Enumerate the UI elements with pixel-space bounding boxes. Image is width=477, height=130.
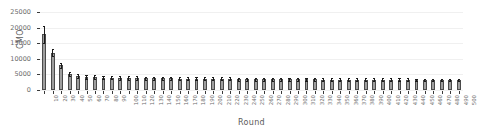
error-cap-upper [179,77,181,78]
error-cap-lower [238,81,240,82]
x-tick-mark [433,91,434,94]
bar-group [169,12,173,90]
x-tick-label: 460 [437,95,443,105]
bar-group [195,12,199,90]
x-tick-label: 130 [158,95,164,105]
bar-group [457,12,461,90]
error-bar [44,26,45,43]
x-tick-label: 90 [121,95,127,102]
error-cap-upper [280,78,282,79]
x-tick-label: 300 [302,95,308,105]
error-cap-lower [77,78,79,79]
error-cap-lower [398,81,400,82]
error-cap-lower [145,80,147,81]
bar-group [186,12,190,90]
bar-group [135,12,139,90]
x-tick-mark [425,91,426,94]
error-cap-lower [187,80,189,81]
error-cap-lower [272,81,274,82]
error-cap-lower [365,81,367,82]
bar-group [389,12,393,90]
x-tick-mark [120,91,121,94]
error-cap-lower [170,80,172,81]
x-tick-mark [163,91,164,94]
x-tick-label: 470 [446,95,452,105]
error-cap-upper [102,76,104,77]
error-cap-lower [52,56,54,57]
y-tick-mark [37,74,40,75]
y-tick-label: 10000 [0,55,36,62]
error-cap-upper [348,78,350,79]
x-tick-mark [61,91,62,94]
x-tick-label: 50 [87,95,93,102]
x-tick-label: 10 [53,95,59,102]
x-tick-label: 260 [268,95,274,105]
error-cap-upper [77,74,79,75]
x-tick-label: 30 [70,95,76,102]
error-bar [52,49,53,56]
error-cap-lower [297,81,299,82]
x-tick-mark [239,91,240,94]
error-cap-lower [43,43,45,44]
x-tick-label: 480 [454,95,460,105]
error-cap-upper [305,78,307,79]
bar-group [423,12,427,90]
bar-group [245,12,249,90]
bar-group [448,12,452,90]
error-cap-upper [314,78,316,79]
x-tick-mark [332,91,333,94]
error-cap-lower [94,79,96,80]
error-cap-lower [314,81,316,82]
x-tick-label: 100 [133,95,139,105]
error-cap-lower [458,81,460,82]
error-cap-upper [60,63,62,64]
x-tick-mark [247,91,248,94]
bar-group [364,12,368,90]
bar-group [262,12,266,90]
x-tick-label: 400 [387,95,393,105]
plot-area [40,12,463,90]
error-cap-upper [441,79,443,80]
bar-group [76,12,80,90]
error-cap-upper [238,78,240,79]
x-tick-mark [290,91,291,94]
error-cap-lower [162,80,164,81]
bar-group [51,12,55,90]
error-cap-lower [288,81,290,82]
error-cap-upper [339,78,341,79]
error-cap-upper [322,78,324,79]
x-tick-mark [340,91,341,94]
error-cap-lower [246,81,248,82]
error-cap-upper [255,78,257,79]
error-cap-lower [111,79,113,80]
error-cap-upper [221,77,223,78]
x-tick-mark [95,91,96,94]
y-tick-label: 15000 [0,40,36,47]
error-cap-upper [432,79,434,80]
bar-group [110,12,114,90]
x-tick-mark [442,91,443,94]
bar-group [254,12,258,90]
x-tick-label: 60 [96,95,102,102]
x-tick-label: 20 [62,95,68,102]
bar-group [288,12,292,90]
error-cap-upper [407,78,409,79]
x-tick-mark [171,91,172,94]
error-cap-lower [322,81,324,82]
bar-group [381,12,385,90]
x-tick-mark [383,91,384,94]
x-tick-label: 110 [141,95,147,105]
error-cap-lower [339,81,341,82]
error-cap-upper [69,72,71,73]
bar [59,65,63,90]
y-tick-label: 0 [0,87,36,94]
error-cap-upper [204,77,206,78]
x-tick-mark [374,91,375,94]
error-cap-lower [85,79,87,80]
error-cap-upper [424,79,426,80]
bar-group [355,12,359,90]
error-cap-lower [153,80,155,81]
x-tick-label: 220 [234,95,240,105]
bar-group [271,12,275,90]
x-tick-label: 290 [294,95,300,105]
